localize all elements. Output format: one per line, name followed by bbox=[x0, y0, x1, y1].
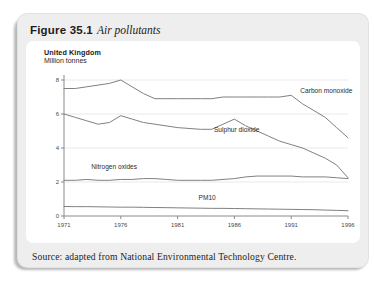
y-tick-label: 2 bbox=[56, 179, 60, 185]
chart-series-group bbox=[64, 80, 348, 211]
x-tick-label: 1971 bbox=[57, 222, 71, 228]
x-tick-label: 1991 bbox=[285, 222, 299, 228]
y-tick-label: 0 bbox=[56, 213, 60, 219]
y-axis-ticks: 02468 bbox=[56, 77, 64, 219]
y-tick-label: 6 bbox=[56, 111, 60, 117]
line-chart: 02468197119761981198619911996Carbon mono… bbox=[26, 41, 360, 243]
x-tick-label: 1981 bbox=[171, 222, 185, 228]
series-annotation: PM10 bbox=[199, 194, 217, 201]
series-line-pm10 bbox=[64, 206, 348, 210]
y-tick-label: 8 bbox=[56, 77, 60, 83]
figure-card: Figure 35.1Air pollutants United Kingdom… bbox=[18, 14, 368, 267]
chart-annotations: Carbon monoxideSulphur dioxideNitrogen o… bbox=[91, 87, 352, 201]
chart-panel: United Kingdom Million tonnes 0246819711… bbox=[26, 41, 360, 243]
x-tick-label: 1976 bbox=[114, 222, 128, 228]
series-annotation: Carbon monoxide bbox=[300, 87, 352, 94]
x-tick-label: 1996 bbox=[341, 222, 355, 228]
series-annotation: Sulphur dioxide bbox=[214, 126, 260, 134]
y-tick-label: 4 bbox=[56, 145, 60, 151]
x-tick-label: 1986 bbox=[228, 222, 242, 228]
source-text: Source: adapted from National Environmen… bbox=[32, 251, 296, 262]
x-axis-ticks: 197119761981198619911996 bbox=[57, 216, 355, 228]
figure-number: Figure 35.1 bbox=[30, 24, 93, 36]
figure-title-bar: Figure 35.1Air pollutants bbox=[18, 14, 368, 40]
series-annotation: Nitrogen oxides bbox=[91, 163, 138, 171]
series-line-nitrogen-oxides bbox=[64, 176, 348, 180]
page-background: Figure 35.1Air pollutants United Kingdom… bbox=[0, 0, 374, 284]
source-note: Source: adapted from National Environmen… bbox=[18, 246, 368, 267]
figure-caption: Air pollutants bbox=[97, 24, 161, 36]
